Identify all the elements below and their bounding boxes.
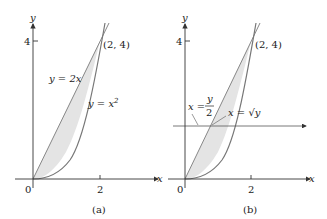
line-label-a: y = 2x <box>48 73 82 84</box>
origin-label-a: 0 <box>25 184 31 195</box>
x-axis-label-a: x <box>157 173 163 184</box>
diagram-stage: y x 4 0 2 (2, 4) y = 2x y = x2 (a) y x 4… <box>0 0 327 219</box>
caption-b: (b) <box>243 204 257 215</box>
curve-label-b: x = √y <box>228 107 261 118</box>
y-axis-label-a: y <box>29 12 36 23</box>
point-label-a: (2, 4) <box>103 39 130 50</box>
y-tick-label-a: 4 <box>24 36 30 47</box>
point-label-b: (2, 4) <box>255 39 282 50</box>
leader-line-left <box>192 114 198 125</box>
x-tick-label-b: 2 <box>248 184 254 195</box>
line-label-b-den: 2 <box>206 107 212 118</box>
line-label-b-left: x = <box>188 101 205 112</box>
curve-label-a: y = x2 <box>87 97 119 109</box>
y-tick-label-b: 4 <box>176 36 182 47</box>
caption-a: (a) <box>92 204 106 215</box>
x-axis-label-b: x <box>309 173 315 184</box>
x-tick-label-a: 2 <box>97 184 103 195</box>
y-axis-label-b: y <box>181 12 188 23</box>
panel-a: y x 4 0 2 (2, 4) y = 2x y = x2 (a) <box>15 12 163 215</box>
line-label-b-num: y <box>206 93 213 104</box>
origin-label-b: 0 <box>177 184 183 195</box>
panel-b: y x 4 0 2 (2, 4) x = y 2 x = √y (b) <box>168 12 315 215</box>
diagram-svg: y x 4 0 2 (2, 4) y = 2x y = x2 (a) y x 4… <box>0 0 327 219</box>
